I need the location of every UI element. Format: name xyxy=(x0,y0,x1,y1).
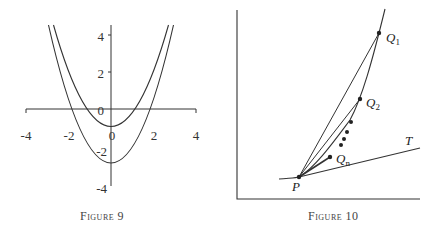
label-p: P xyxy=(291,179,300,194)
y-tick-0: 0 xyxy=(98,103,105,118)
figure-9-caption: Figure 9 xyxy=(80,209,124,224)
y-tick-2: 2 xyxy=(98,66,105,81)
point-q3 xyxy=(349,120,353,124)
secant-pq2 xyxy=(299,99,360,177)
y-tick-neg4: -4 xyxy=(96,181,107,196)
tangent-line xyxy=(299,148,420,177)
label-t: T xyxy=(405,133,413,148)
x-tick-0: 0 xyxy=(109,128,116,143)
point-qn xyxy=(328,155,332,159)
figure-10-caption: Figure 10 xyxy=(308,209,359,224)
figures-canvas: 4 2 0 -2 -4 -4 -2 0 2 4 Q1 Q2 Qn xyxy=(0,0,438,232)
secant-pqn xyxy=(299,157,330,177)
label-q2: Q2 xyxy=(366,95,380,112)
x-tick-neg4: -4 xyxy=(21,128,32,143)
y-tick-4: 4 xyxy=(98,29,105,44)
figure-9-plot: 4 2 0 -2 -4 -4 -2 0 2 4 xyxy=(21,25,200,196)
figure-10-diagram: Q1 Q2 Qn P T xyxy=(237,9,420,199)
point-q6 xyxy=(339,143,343,147)
point-q5 xyxy=(342,137,346,141)
x-tick-4: 4 xyxy=(193,128,200,143)
curve xyxy=(279,9,385,179)
point-q4 xyxy=(345,130,349,134)
label-q1: Q1 xyxy=(386,30,400,47)
point-q2 xyxy=(358,97,362,101)
x-tick-2: 2 xyxy=(151,128,158,143)
point-q1 xyxy=(377,31,381,35)
label-qn: Qn xyxy=(336,151,350,168)
x-tick-neg2: -2 xyxy=(64,128,75,143)
